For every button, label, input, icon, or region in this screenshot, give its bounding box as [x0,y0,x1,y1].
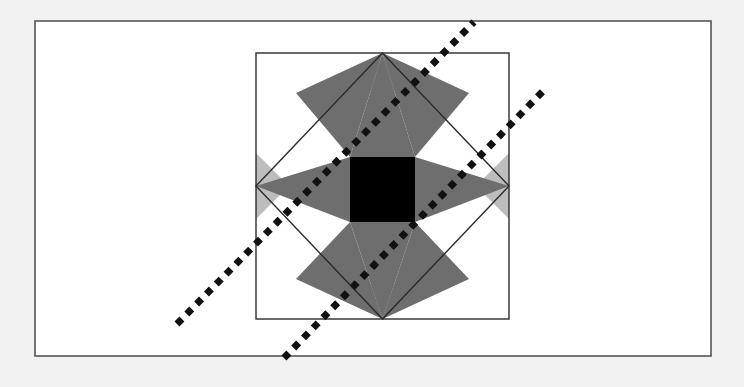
geometric-figure: Eight-Pointed Star Quilt Block with Two … [0,0,744,387]
figure-canvas: Eight-Pointed Star Quilt Block with Two … [0,0,744,387]
center-square [350,157,415,222]
